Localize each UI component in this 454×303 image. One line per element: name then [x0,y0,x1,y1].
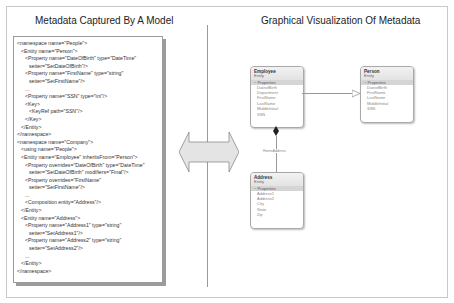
left-panel-title: Metadata Captured By A Model [35,15,173,26]
code-line: ... [17,192,162,200]
code-line: <Property name="SSN" type="int"/> [17,93,162,101]
code-line: <Property overrides="DateOfBirth" type="… [17,162,162,170]
entity-header: Person Entity [361,67,413,80]
xml-code-box: <namespace name="People"><Entity name="P… [13,36,163,283]
entity-address[interactable]: Address Entity − Properties Address1 Add… [250,172,304,229]
code-line: <Key> [17,101,162,109]
entity-employee[interactable]: Employee Entity − Properties DateofBirth… [250,66,304,128]
code-line: ... [17,253,162,261]
right-panel-title: Graphical Visualization Of Metadata [261,15,420,26]
inheritance-connector [302,93,354,94]
double-headed-arrow-icon [179,129,239,175]
composition-label: HomeAddress [262,149,287,153]
code-line: setter="SetAddress2"/> [17,245,162,253]
entity-header: Address Entity [251,173,303,186]
code-line: <Property name="FirstName" type="string" [17,70,162,78]
code-line: <KeyRef path="SSN"/> [17,108,162,116]
composition-connector [276,136,277,172]
entity-header: Employee Entity [251,67,303,80]
code-line: </Entity> [17,207,162,215]
entity-kind: Entity [254,180,300,185]
code-line: </namespace> [17,268,162,276]
code-line: <Property overrides="FirstName" [17,177,162,185]
code-line: <Entity name="Person"> [17,48,162,56]
code-line: setter="SetDateOfBirth"/> [17,63,162,71]
code-line: <using name="People"> [17,146,162,154]
code-line: <namespace name="People"> [17,40,162,48]
code-line: setter="SetFirstName"/> [17,184,162,192]
code-line: </Key> [17,116,162,124]
code-line: </Entity> [17,124,162,132]
inheritance-arrowhead-icon [352,89,361,98]
code-line: <Property name="Address2" type="string" [17,237,162,245]
property-item: Zip [251,212,303,217]
code-line: </namespace> [17,131,162,139]
entity-person[interactable]: Person Entity − Properties DateofBirth F… [360,66,414,123]
code-line: <Entity name="Address"> [17,215,162,223]
code-line: setter="SetFirstName"/> [17,78,162,86]
property-item: SSN [251,112,303,117]
code-line: </Entity> [17,260,162,268]
property-item: SSN [361,106,413,111]
composition-diamond-icon [272,126,280,136]
code-line: <Entity name="Employee" inheritsFrom="Pe… [17,154,162,162]
code-line: <Property name="Address1" type="string" [17,222,162,230]
code-line: <Property name="DateOfBirth" type="DateT… [17,55,162,63]
code-line: setter="SetDateOfBirth" modifiers="Final… [17,169,162,177]
code-line: ... [17,86,162,94]
entity-kind: Entity [364,74,410,79]
code-line: <namespace name="Company"> [17,139,162,147]
code-line: setter="SetAddress1"/> [17,230,162,238]
entity-kind: Entity [254,74,300,79]
code-line: <Composition entity="Address"/> [17,199,162,207]
